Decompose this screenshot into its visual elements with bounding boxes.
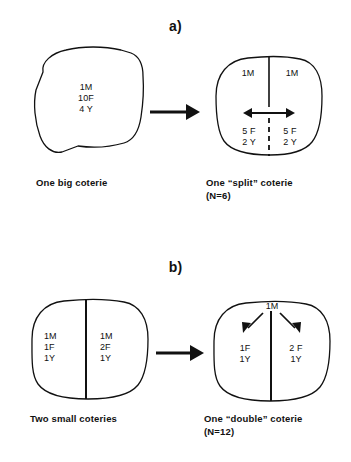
panel-b: b) 1M 1F 1Y 1M 2F 1Y [0, 231, 351, 462]
split-double-arrow [243, 108, 295, 118]
panel-a: a) 1M 10F 4 Y 1M [0, 0, 351, 231]
big-coterie-counts: 1M 10F 4 Y [62, 82, 110, 115]
panel-a-graphics [0, 0, 351, 231]
split-bottom-right-counts: 5 F 2 Y [275, 126, 305, 148]
split-top-left-text: 1M [242, 68, 255, 78]
small-coterie-right-counts: 1M 2F 1Y [100, 331, 132, 364]
transition-arrow-a [150, 104, 200, 120]
double-coterie-left-counts: 1F 1Y [232, 343, 258, 365]
caption-one-split-coterie: One “split” coterie [206, 176, 293, 189]
double-coterie-right-counts: 2 F 1Y [283, 343, 309, 365]
split-top-left-counts: 1M [232, 68, 264, 79]
caption-one-big-coterie: One big coterie [36, 176, 107, 189]
caption-one-double-coterie: One “double” coterie [204, 412, 303, 425]
caption-two-small-coteries: Two small coteries [30, 412, 117, 425]
small-coterie-left-counts: 1M 1F 1Y [44, 331, 76, 364]
split-top-right-text: 1M [286, 68, 299, 78]
caption-double-n: (N=12) [204, 425, 234, 438]
transition-arrow-b [156, 345, 204, 361]
caption-split-n: (N=6) [206, 189, 231, 202]
coterie-figure: a) 1M 10F 4 Y 1M [0, 0, 351, 462]
double-coterie-male-label: 1M [260, 301, 284, 311]
split-bottom-left-counts: 5 F 2 Y [234, 126, 264, 148]
split-top-right-counts: 1M [276, 68, 308, 79]
